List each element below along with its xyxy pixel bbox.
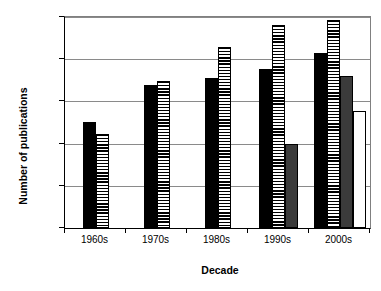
x-axis-title: Decade: [60, 264, 380, 276]
x-tick-mark: [64, 228, 65, 233]
publications-by-decade-bar-chart: Number of publications Decade 100,00010,…: [0, 0, 381, 291]
y-tick-mark: [59, 185, 64, 186]
bar-1990s-series-1: [259, 69, 272, 228]
y-tick-mark: [59, 58, 64, 59]
x-tick-mark: [308, 228, 309, 233]
bar-2000s-series-4: [353, 111, 366, 228]
bar-1990s-series-2: [272, 25, 285, 228]
bar-1980s-series-2: [218, 47, 231, 229]
x-tick-label: 1990s: [243, 234, 313, 245]
bar-1960s-series-1: [83, 122, 96, 228]
x-tick-mark: [125, 228, 126, 233]
bar-2000s-series-1: [314, 53, 327, 228]
x-tick-label: 1970s: [121, 234, 191, 245]
x-tick-label: 1980s: [182, 234, 252, 245]
y-tick-mark: [59, 16, 64, 17]
y-axis-title: Number of publications: [17, 61, 29, 231]
y-tick-mark: [59, 100, 64, 101]
x-tick-label: 2000s: [304, 234, 374, 245]
y-tick-mark: [59, 143, 64, 144]
bar-1980s-series-1: [205, 78, 218, 228]
x-tick-label: 1960s: [60, 234, 130, 245]
bar-1960s-series-2: [96, 134, 109, 228]
x-tick-mark: [247, 228, 248, 233]
bar-1970s-series-1: [144, 85, 157, 228]
x-tick-mark: [369, 228, 370, 233]
plot-area: [64, 16, 371, 229]
bar-2000s-series-3: [340, 76, 353, 228]
x-tick-mark: [186, 228, 187, 233]
bar-2000s-series-2: [327, 20, 340, 228]
bar-1970s-series-2: [157, 81, 170, 228]
bar-1990s-series-3: [285, 144, 298, 228]
gridline: [65, 17, 370, 18]
